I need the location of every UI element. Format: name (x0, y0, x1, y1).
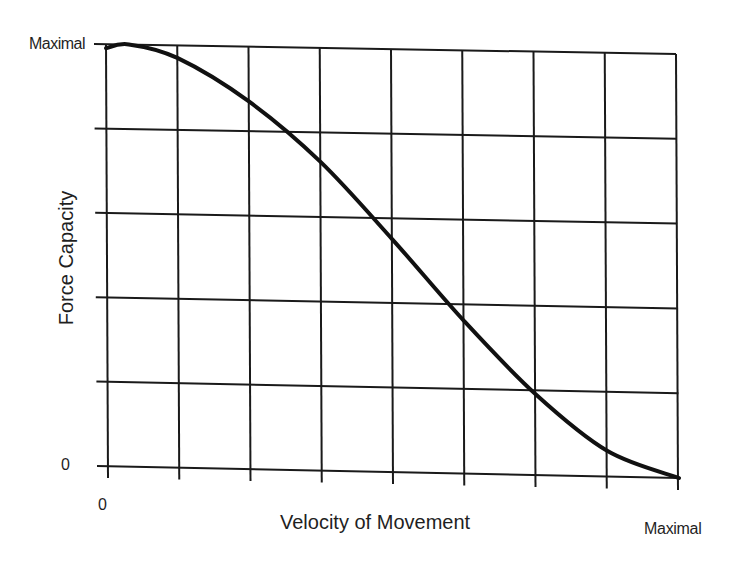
grid-line-vertical (177, 45, 179, 479)
grid-line-vertical (320, 48, 322, 483)
y-axis-max-label: Maximal (29, 35, 85, 53)
grid-line-vertical (106, 44, 108, 478)
grid-line-vertical (676, 54, 678, 490)
grid-line-vertical (462, 50, 464, 485)
grid-line-horizontal (96, 297, 678, 308)
x-axis-title: Velocity of Movement (280, 511, 470, 534)
x-axis-zero-label: 0 (98, 496, 107, 514)
grid-line-horizontal (95, 213, 677, 224)
grid-line-vertical (534, 52, 536, 488)
grid-line-horizontal (96, 382, 678, 394)
grid-line-horizontal (94, 44, 676, 54)
y-axis-title: Force Capacity (55, 191, 78, 326)
plot-area (0, 0, 744, 563)
grid-line-vertical (249, 47, 251, 482)
grid-line-horizontal (95, 128, 677, 138)
grid-line-vertical (605, 53, 607, 489)
x-axis-max-label: Maximal (644, 520, 701, 538)
grid-line-horizontal (97, 466, 679, 478)
grid-line-vertical (391, 49, 393, 484)
force-velocity-chart: Maximal 0 0 Maximal Velocity of Movement… (0, 0, 744, 563)
y-axis-zero-label: 0 (61, 456, 70, 474)
